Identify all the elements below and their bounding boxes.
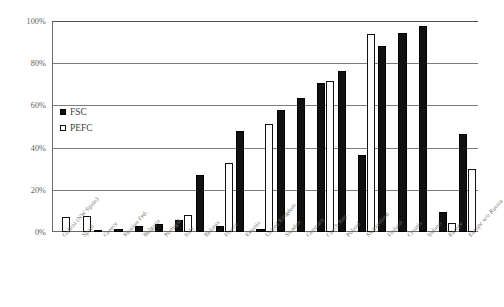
- bar-fsc: [338, 71, 346, 232]
- y-axis-tick: 100%: [0, 17, 46, 26]
- bar-fsc: [94, 230, 102, 232]
- bar-group: [377, 21, 397, 232]
- legend-item-fsc: FSC: [60, 104, 93, 120]
- legend-swatch-fsc-icon: [60, 109, 66, 115]
- bar-group: [174, 21, 194, 232]
- bar-fsc: [358, 155, 366, 232]
- bar-pefc: [468, 169, 476, 232]
- bar-group: [113, 21, 133, 232]
- bar-group: [417, 21, 437, 232]
- bar-fsc: [398, 33, 406, 232]
- bar-group: [133, 21, 153, 232]
- bar-group: [356, 21, 376, 232]
- bar-group: [214, 21, 234, 232]
- bar-group: [235, 21, 255, 232]
- bar-group: [397, 21, 417, 232]
- bar-group: [437, 21, 457, 232]
- y-axis-tick: 20%: [0, 185, 46, 194]
- legend-label-pefc: PEFC: [70, 123, 93, 133]
- bar-fsc: [419, 26, 427, 232]
- bar-group: [336, 21, 356, 232]
- y-axis-tick: 60%: [0, 101, 46, 110]
- bar-group: [295, 21, 315, 232]
- bar-pefc: [265, 124, 273, 232]
- legend-swatch-pefc-icon: [60, 125, 66, 131]
- legend-label-fsc: FSC: [70, 107, 87, 117]
- x-axis-tick-labels: Galicia (NW Spain)SpainGreeceRussian Fed…: [52, 234, 478, 307]
- y-axis-tick: 80%: [0, 59, 46, 68]
- legend-item-pefc: PEFC: [60, 120, 93, 136]
- bar-fsc: [256, 229, 264, 232]
- y-axis-tick: 40%: [0, 143, 46, 152]
- bar-fsc: [297, 98, 305, 232]
- bar-group: [194, 21, 214, 232]
- bar-fsc: [459, 134, 467, 232]
- bar-fsc: [196, 175, 204, 232]
- bar-group: [458, 21, 478, 232]
- bar-pefc: [326, 81, 334, 232]
- bar-pefc: [367, 34, 375, 232]
- bars-layer: [52, 21, 478, 232]
- bar-fsc: [378, 46, 386, 232]
- bar-fsc: [317, 83, 325, 232]
- y-axis-tick: 0%: [0, 228, 46, 237]
- chart-legend: FSC PEFC: [60, 104, 93, 136]
- bar-pefc: [225, 163, 233, 232]
- bar-fsc: [114, 229, 122, 232]
- bar-group: [316, 21, 336, 232]
- bar-group: [275, 21, 295, 232]
- bar-group: [153, 21, 173, 232]
- bar-fsc: [236, 131, 244, 232]
- bar-group: [255, 21, 275, 232]
